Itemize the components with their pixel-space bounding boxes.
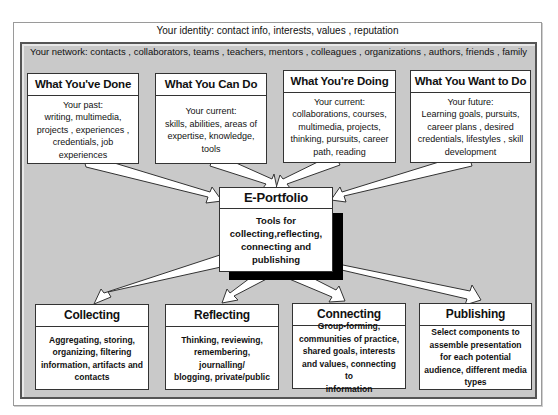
box-title: Collecting (36, 305, 148, 327)
box-title: Publishing (420, 304, 531, 326)
box-title: What You've Done (28, 74, 138, 96)
arrow-eportfolio-to-publishing (333, 259, 481, 305)
box-body: Your future: Learning goals, pursuits, c… (418, 96, 524, 159)
box-what-you-can-do: What You Can Do Your current: skills, ab… (155, 73, 267, 164)
box-body: Aggregating, storing, organizing, filter… (41, 334, 143, 384)
box-connecting: Connecting Group-forming, communities of… (292, 303, 406, 389)
box-body: Tools for collecting,reflecting, connect… (230, 214, 322, 266)
box-collecting: Collecting Aggregating, storing, organiz… (35, 304, 149, 390)
box-what-youve-done: What You've Done Your past: writing, mul… (27, 73, 139, 164)
box-publishing: Publishing Select components to assemble… (419, 303, 532, 390)
box-title: Reflecting (166, 305, 278, 327)
arrow-eportfolio-to-collecting (94, 253, 230, 304)
box-body: Your past: writing, multimedia, projects… (37, 99, 130, 162)
box-body: Select components to assemble presentati… (424, 326, 527, 389)
box-title: What You're Doing (284, 71, 395, 93)
box-title: E-Portfolio (220, 188, 332, 209)
box-body: Your current: skills, abilities, areas o… (165, 105, 257, 155)
box-body: Your current: collaborations, courses, m… (290, 96, 388, 159)
box-body: Thinking, reviewing, remembering, journa… (170, 334, 274, 384)
box-body: Group-forming, communities of practice, … (297, 320, 401, 395)
box-title: What You Want to Do (411, 71, 530, 93)
box-what-youre-doing: What You're Doing Your current: collabor… (283, 70, 396, 163)
box-reflecting: Reflecting Thinking, reviewing, remember… (165, 304, 279, 390)
box-eportfolio: E-Portfolio Tools for collecting,reflect… (219, 187, 333, 272)
box-what-you-want-to-do: What You Want to Do Your future: Learnin… (410, 70, 531, 163)
box-title: What You Can Do (156, 74, 266, 96)
